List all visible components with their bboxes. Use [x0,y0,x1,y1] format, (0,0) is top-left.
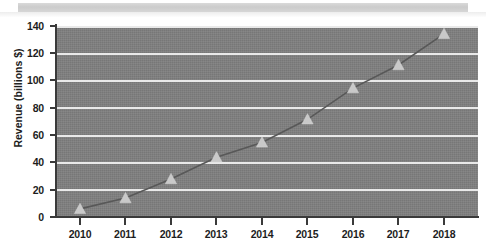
x-tick-2017 [397,218,399,225]
x-tick-label-2015: 2015 [283,228,331,240]
x-tick-label-2010: 2010 [56,228,104,240]
scan-artifact-band [18,3,468,12]
x-tick-label-2018: 2018 [420,228,468,240]
y-tick-label-0: 0 [10,211,44,223]
gridline-100 [57,80,478,82]
x-axis-line [55,216,479,218]
x-tick-2018 [443,218,445,225]
y-tick-140 [50,25,57,27]
y-tick-80 [50,107,57,109]
gridline-60 [57,135,478,137]
gridline-80 [57,107,478,109]
y-tick-40 [50,161,57,163]
x-tick-2011 [124,218,126,225]
gridline-40 [57,162,478,164]
plot-area [57,26,478,216]
y-tick-0 [50,216,57,218]
x-tick-label-2016: 2016 [329,228,377,240]
gridline-20 [57,189,478,191]
scan-artifact-fade [0,12,486,17]
x-tick-label-2013: 2013 [192,228,240,240]
x-tick-label-2017: 2017 [374,228,422,240]
x-tick-label-2011: 2011 [101,228,149,240]
y-tick-60 [50,134,57,136]
y-axis-label: Revenue (billions $) [12,18,24,178]
chart-figure: 140 120 100 80 60 40 20 0 Revenue (billi… [0,0,486,251]
x-tick-2015 [306,218,308,225]
x-tick-label-2012: 2012 [147,228,195,240]
x-tick-label-2014: 2014 [238,228,286,240]
x-tick-2010 [79,218,81,225]
x-tick-2013 [215,218,217,225]
x-tick-2012 [170,218,172,225]
y-tick-120 [50,52,57,54]
y-tick-label-20: 20 [10,184,44,196]
x-tick-2016 [352,218,354,225]
gridline-140 [57,26,478,28]
y-tick-20 [50,189,57,191]
x-tick-2014 [261,218,263,225]
y-tick-100 [50,79,57,81]
gridline-120 [57,53,478,55]
